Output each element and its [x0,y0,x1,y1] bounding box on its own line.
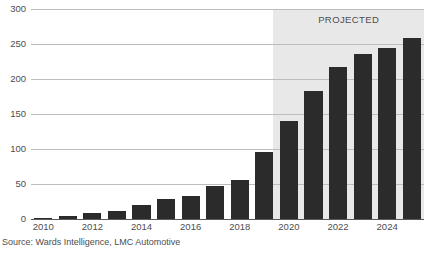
y-axis-tick-label: 150 [10,109,26,119]
bar [304,91,322,219]
x-axis-tick-label: 2012 [82,222,103,232]
y-axis-tick-label: 0 [21,214,26,224]
bar [329,67,347,219]
x-axis-tick-label: 2020 [278,222,299,232]
x-axis-line: 0 [31,219,424,220]
source-caption: Source: Wards Intelligence, LMC Automoti… [2,238,180,247]
bar [231,180,249,219]
x-axis-tick-label: 2010 [33,222,54,232]
bar [378,48,396,220]
y-axis-tick-label: 200 [10,74,26,84]
chart-container: 050100150200250300 201020122014201620182… [0,0,427,256]
x-axis-tick-label: 2014 [131,222,152,232]
plot-area: 050100150200250300 201020122014201620182… [31,9,424,219]
bar [59,216,77,220]
y-axis-tick-label: 50 [15,179,26,189]
x-axis-tick-label: 2024 [377,222,398,232]
x-axis-tick-label: 2022 [327,222,348,232]
bar [182,196,200,219]
bar [403,38,421,219]
bar [83,213,101,219]
x-axis-tick-label: 2016 [180,222,201,232]
bar [255,152,273,219]
bars-group [31,9,424,219]
bar [34,218,52,219]
y-axis-tick-label: 100 [10,144,26,154]
bar [354,54,372,219]
y-axis-tick-label: 250 [10,39,26,49]
y-axis-tick-label: 300 [10,4,26,14]
bar [157,199,175,219]
bar [108,211,126,219]
bar [132,205,150,219]
bar [206,186,224,219]
projected-label: PROJECTED [318,14,379,25]
x-axis-tick-label: 2018 [229,222,250,232]
bar [280,121,298,219]
